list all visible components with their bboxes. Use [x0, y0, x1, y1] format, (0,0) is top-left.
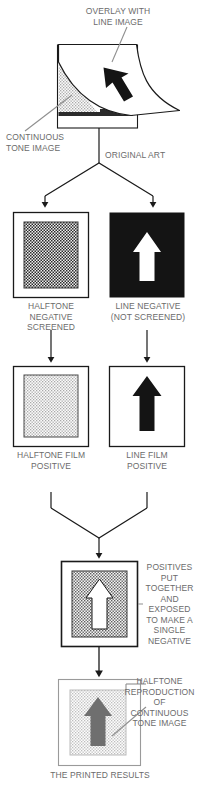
connector-positives-to-combined	[51, 492, 147, 554]
label-halftone-negative-screened: HALFTONE NEGATIVE SCREENED	[10, 301, 92, 333]
label-line-negative-not-screened: LINE NEGATIVE (NOT SCREENED)	[106, 301, 190, 322]
stage-line-film-positive-art	[110, 367, 185, 447]
label-original-art: ORIGINAL ART	[105, 150, 191, 161]
stage-original-art-illustration	[25, 27, 180, 131]
stage-halftone-film-positive-art	[14, 367, 89, 447]
stage-line-negative-art	[110, 213, 185, 298]
stage-halftone-negative-art	[14, 213, 89, 298]
stage-combined-negative-art	[62, 562, 138, 647]
label-continuous-tone-image: CONTINUOUS TONE IMAGE	[6, 132, 84, 153]
label-halftone-film-positive: HALFTONE FILM POSITIVE	[6, 450, 96, 471]
label-line-film-positive: LINE FILM POSITIVE	[107, 450, 187, 471]
connector-negatives-to-positives	[51, 330, 147, 358]
process-diagram-graphics	[0, 0, 199, 793]
label-overlay-with-line-image: OVERLAY WITH LINE IMAGE	[58, 6, 178, 27]
label-halftone-reproduction: HALFTONE REPRODUCTION OF CONTINUOUS TONE…	[120, 676, 199, 729]
label-positives-put-together: POSITIVES PUT TOGETHER AND EXPOSED TO MA…	[140, 562, 199, 646]
label-the-printed-results: THE PRINTED RESULTS	[23, 770, 177, 781]
diagram-canvas: OVERLAY WITH LINE IMAGE CONTINUOUS TONE …	[0, 0, 199, 793]
